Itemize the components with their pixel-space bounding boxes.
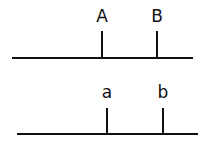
tick-a [106,108,108,134]
tick-b [162,108,164,134]
label-B: B [147,8,167,25]
tick-B [156,31,158,58]
label-A: A [92,8,112,25]
label-a: a [97,84,117,101]
label-b: b [153,84,173,101]
tick-A [101,31,103,58]
